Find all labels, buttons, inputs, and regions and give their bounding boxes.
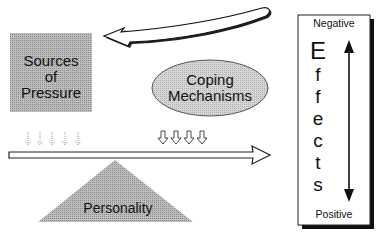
main-horizontal-arrow [9,146,270,164]
effects-bottom-label: Positive [298,208,370,220]
effects-top-label: Negative [298,17,370,29]
coping-line2: Mechanisms [152,88,268,104]
effects-letter: E [306,38,330,64]
coping-arrows [158,131,207,144]
feedback-curved-arrow [104,8,271,48]
sources-line3: Pressure [10,85,92,101]
sources-line2: of [10,69,92,85]
sources-label: Sources of Pressure [10,53,92,101]
effects-letter: c [306,130,330,152]
effects-letter: t [306,152,330,174]
personality-label: Personality [60,200,176,216]
sources-line1: Sources [10,53,92,69]
sources-arrows [25,132,81,145]
coping-line1: Coping [152,72,268,88]
effects-letter: f [306,64,330,86]
effects-letters: E f f e c t s [306,38,330,196]
effects-letter: e [306,108,330,130]
coping-label: Coping Mechanisms [152,72,268,104]
effects-letter: s [306,174,330,196]
effects-letter: f [306,86,330,108]
